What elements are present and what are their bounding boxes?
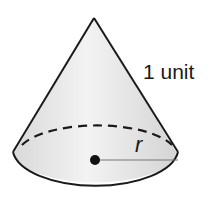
slant-height-label: 1 unit bbox=[143, 60, 194, 84]
cone-diagram: 1 unit r bbox=[0, 0, 215, 199]
cone-figure bbox=[0, 0, 215, 199]
radius-label: r bbox=[135, 133, 142, 157]
base-center-point bbox=[90, 155, 100, 165]
